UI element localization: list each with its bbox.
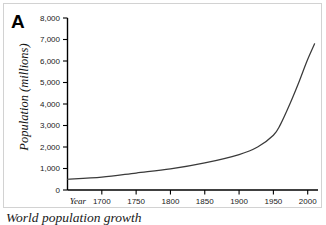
y-axis-group: 01,0002,0003,0004,0005,0006,0007,0008,00… bbox=[40, 14, 68, 195]
x-tick-label: 1700 bbox=[93, 197, 111, 206]
figure-caption: World population growth bbox=[6, 210, 142, 222]
y-tick-label: 2,000 bbox=[40, 143, 61, 152]
population-curve bbox=[68, 44, 315, 179]
x-tick-label: 1800 bbox=[162, 197, 180, 206]
figure-panel-a: A Population (millions) 01,0002,0003,000… bbox=[0, 0, 326, 222]
x-axis-group: 1700175018001850190019502000 Year bbox=[68, 190, 319, 206]
x-tick-label: 2000 bbox=[299, 197, 317, 206]
y-tick-label: 3,000 bbox=[40, 121, 61, 130]
x-tick-label: 1850 bbox=[196, 197, 214, 206]
population-growth-chart: 01,0002,0003,0004,0005,0006,0007,0008,00… bbox=[0, 0, 326, 222]
x-axis-title-label: Year bbox=[70, 196, 87, 206]
x-axis-ticks: 1700175018001850190019502000 bbox=[93, 190, 317, 206]
y-tick-label: 8,000 bbox=[40, 14, 61, 23]
y-tick-label: 5,000 bbox=[40, 78, 61, 87]
x-tick-label: 1900 bbox=[230, 197, 248, 206]
data-series-group bbox=[68, 44, 315, 179]
y-tick-label: 0 bbox=[56, 186, 61, 195]
y-tick-label: 7,000 bbox=[40, 35, 61, 44]
x-tick-label: 1950 bbox=[264, 197, 282, 206]
y-tick-label: 4,000 bbox=[40, 100, 61, 109]
y-axis-ticks: 01,0002,0003,0004,0005,0006,0007,0008,00… bbox=[40, 14, 68, 195]
y-tick-label: 1,000 bbox=[40, 164, 61, 173]
x-tick-label: 1750 bbox=[127, 197, 145, 206]
y-tick-label: 6,000 bbox=[40, 57, 61, 66]
